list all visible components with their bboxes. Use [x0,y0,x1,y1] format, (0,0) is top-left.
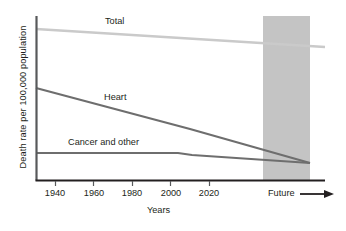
future-arrow-icon [300,190,334,198]
x-tick-label-1980: 1980 [112,188,152,198]
x-axis-title: Years [36,205,281,215]
series-label-total: Total [105,16,124,26]
y-axis-title: Death rate per 100,000 population [18,12,28,182]
x-tick-label-2020: 2020 [189,188,229,198]
series-label-cancer-and-other: Cancer and other [68,137,139,147]
x-axis-ticks [56,181,210,186]
chart-figure: Death rate per 100,000 population Years … [0,0,346,231]
x-tick-label-1960: 1960 [74,188,114,198]
x-axis-future-label: Future [268,188,295,198]
x-tick-label-1940: 1940 [35,188,75,198]
series-label-heart: Heart [104,92,126,102]
x-tick-label-2000: 2000 [151,188,191,198]
